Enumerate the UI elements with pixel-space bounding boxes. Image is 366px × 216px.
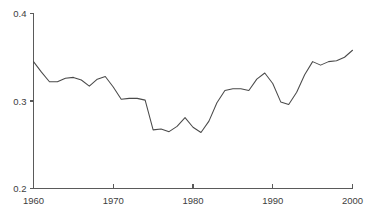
- chart-canvas: 0.20.30.419601970198019902000: [0, 0, 366, 216]
- y-tick-label: 0.3: [13, 96, 26, 107]
- data-series-line: [34, 50, 353, 132]
- x-tick-label: 1980: [182, 195, 203, 206]
- x-tick-label: 2000: [342, 195, 363, 206]
- x-tick-label: 1990: [262, 195, 283, 206]
- x-tick-label: 1970: [103, 195, 124, 206]
- line-chart: 0.20.30.419601970198019902000: [0, 0, 366, 216]
- y-tick-label: 0.4: [13, 8, 26, 19]
- x-tick-label: 1960: [23, 195, 44, 206]
- y-tick-label: 0.2: [13, 183, 26, 194]
